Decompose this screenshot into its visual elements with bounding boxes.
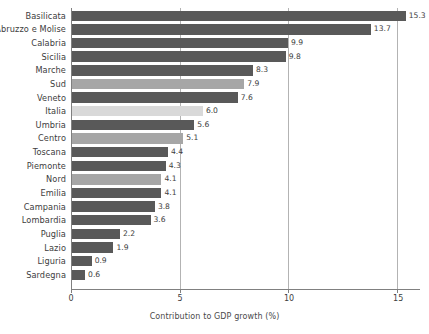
bar-row: Umbria5.6 [71,118,420,132]
x-axis-label: Contribution to GDP growth (%) [0,313,429,321]
bar [72,106,203,116]
bar-value-label: 3.8 [158,203,170,211]
bar [72,201,155,211]
bar [72,65,253,75]
bar [72,242,113,252]
bar-value-label: 5.6 [197,121,209,129]
bar-value-label: 3.6 [154,216,166,224]
bar [72,161,166,171]
category-label: Abruzzo e Molise [0,25,66,33]
bar-value-label: 13.7 [374,26,391,34]
bar-value-label: 4.1 [164,176,176,184]
category-label: Umbria [36,121,66,129]
bar-row: Emilia4.1 [71,186,420,200]
bar-row: Campania3.8 [71,200,420,214]
bar-row: Sicilia9.8 [71,50,420,64]
bar [72,120,194,130]
bar-value-label: 15.3 [409,12,426,20]
bar-value-label: 0.6 [88,271,100,279]
x-tick-label: 15 [393,295,403,303]
x-tick-mark-0 [71,289,72,293]
bar-row: Lombardia3.6 [71,213,420,227]
bar-row: Toscana4.4 [71,145,420,159]
bar-row: Nord4.1 [71,173,420,187]
bar-row: Piemonte4.3 [71,159,420,173]
category-label: Puglia [41,230,66,238]
category-label: Lombardia [22,216,66,224]
category-label: Italia [45,107,66,115]
bar [72,92,238,102]
bar-row: Marche8.3 [71,64,420,78]
bar [72,256,92,266]
category-label: Sicilia [41,53,66,61]
bar-row: Sardegna0.6 [71,268,420,282]
category-label: Nord [46,175,66,183]
bar-value-label: 7.6 [241,94,253,102]
bar [72,270,85,280]
bar-value-label: 4.4 [171,148,183,156]
category-label: Sud [50,80,66,88]
y-axis-line [71,8,72,289]
category-label: Sardegna [26,271,66,279]
bar [72,79,244,89]
bar-row: Lazio1.9 [71,241,420,255]
bar-row: Calabria9.9 [71,36,420,50]
bar [72,51,286,61]
x-tick-label: 5 [178,295,183,303]
x-tick-label: 0 [68,295,73,303]
category-label: Emilia [40,189,66,197]
category-label: Centro [38,134,66,142]
bar-value-label: 2.2 [123,230,135,238]
bar-value-label: 1.9 [116,244,128,252]
bar-row: Italia6.0 [71,104,420,118]
bar-value-label: 6.0 [206,107,218,115]
bar-row: Puglia2.2 [71,227,420,241]
bar [72,133,183,143]
bar-row: Sud7.9 [71,77,420,91]
bar [72,229,120,239]
bar [72,174,161,184]
bar-row: Liguria0.9 [71,254,420,268]
category-label: Calabria [31,39,66,47]
category-label: Lazio [44,243,66,251]
plot-area: Basilicata15.3Abruzzo e Molise13.7Calabr… [71,8,420,289]
x-axis-line [71,289,420,290]
x-tick-mark-10 [288,289,289,293]
bar-value-label: 7.9 [247,80,259,88]
bar-value-label: 4.1 [164,189,176,197]
bar-value-label: 9.9 [291,39,303,47]
caption-clipped [0,330,429,334]
bar-value-label: 0.9 [95,257,107,265]
bar [72,24,371,34]
category-label: Basilicata [26,12,66,20]
bar-row: Basilicata15.3 [71,9,420,23]
x-tick-mark-5 [180,289,181,293]
bar-chart: Basilicata15.3Abruzzo e Molise13.7Calabr… [0,0,429,334]
category-label: Piemonte [27,162,66,170]
category-label: Toscana [33,148,66,156]
category-label: Liguria [37,257,66,265]
bar [72,188,161,198]
x-tick-mark-15 [397,289,398,293]
bar-row: Centro5.1 [71,132,420,146]
category-label: Veneto [37,93,66,101]
bar-value-label: 9.8 [289,53,301,61]
bar [72,147,168,157]
category-label: Marche [35,66,66,74]
x-tick-label: 10 [284,295,294,303]
bar-row: Abruzzo e Molise13.7 [71,23,420,37]
bar-value-label: 5.1 [186,135,198,143]
bar [72,11,406,21]
bar [72,215,151,225]
category-label: Campania [24,203,66,211]
bar-value-label: 4.3 [169,162,181,170]
bar [72,38,288,48]
bar-value-label: 8.3 [256,67,268,75]
bar-row: Veneto7.6 [71,91,420,105]
